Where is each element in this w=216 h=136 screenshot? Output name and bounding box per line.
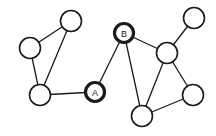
graph-edge [40, 21, 71, 95]
graph-figure: AB [0, 0, 216, 136]
node-circle[interactable] [157, 43, 178, 64]
graph-edge [124, 33, 142, 116]
graph-node-n4[interactable] [157, 43, 178, 64]
node-circle[interactable] [61, 11, 82, 32]
graph-node-n6[interactable] [183, 85, 204, 106]
node-layer: AB [20, 8, 205, 127]
edge-layer [30, 18, 194, 116]
node-circle[interactable] [30, 85, 51, 106]
graph-node-A[interactable]: A [86, 83, 105, 102]
graph-node-n1[interactable] [61, 11, 82, 32]
node-circle[interactable] [132, 106, 153, 127]
graph-node-B[interactable]: B [115, 24, 134, 43]
node-circle[interactable] [20, 38, 41, 59]
node-circle[interactable] [184, 8, 205, 29]
graph-node-n2[interactable] [20, 38, 41, 59]
graph-node-n5[interactable] [184, 8, 205, 29]
node-label: A [92, 88, 98, 98]
graph-canvas: AB [0, 0, 216, 136]
node-label: B [121, 29, 127, 39]
graph-node-n7[interactable] [132, 106, 153, 127]
graph-node-n3[interactable] [30, 85, 51, 106]
node-circle[interactable] [183, 85, 204, 106]
